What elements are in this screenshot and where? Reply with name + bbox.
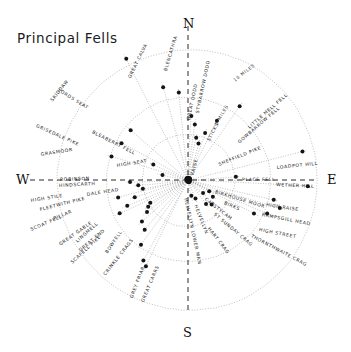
fell-marker[interactable] — [133, 195, 137, 199]
bearing-ray — [133, 180, 185, 185]
bearing-ray — [113, 181, 185, 199]
fell-radial-diagram — [0, 0, 351, 352]
bearing-ray — [191, 176, 241, 179]
fell-marker[interactable] — [238, 104, 242, 108]
fell-marker[interactable] — [148, 201, 152, 205]
bearing-ray — [127, 127, 186, 178]
fell-marker[interactable] — [211, 195, 215, 199]
fell-marker[interactable] — [136, 183, 140, 187]
fell-marker[interactable] — [141, 258, 145, 262]
fell-marker[interactable] — [139, 243, 143, 247]
fell-marker[interactable] — [252, 212, 256, 216]
fell-marker[interactable] — [143, 228, 147, 232]
fell-marker[interactable] — [129, 128, 133, 132]
cardinal-south: S — [183, 325, 192, 340]
fell-marker[interactable] — [125, 204, 129, 208]
fell-marker[interactable] — [207, 189, 211, 193]
fell-marker[interactable] — [141, 187, 145, 191]
bearing-ray — [144, 183, 187, 271]
fell-label: PLACE FELL — [242, 178, 275, 183]
fell-marker[interactable] — [140, 219, 144, 223]
fell-marker[interactable] — [272, 198, 276, 202]
fell-marker[interactable] — [203, 131, 207, 135]
fell-marker[interactable] — [110, 155, 114, 159]
fell-marker[interactable] — [177, 90, 181, 94]
bearing-ray — [162, 82, 187, 177]
fell-marker[interactable] — [151, 163, 155, 167]
hub-blob — [185, 180, 189, 184]
fell-marker[interactable] — [146, 205, 150, 209]
bearing-ray — [138, 182, 186, 248]
cardinal-axes-group — [30, 26, 318, 312]
bearing-ray — [189, 183, 193, 201]
fell-marker[interactable] — [234, 175, 238, 179]
bearing-ray — [115, 181, 185, 215]
cardinal-north: N — [183, 16, 194, 31]
fell-marker[interactable] — [300, 149, 304, 153]
fell-marker[interactable] — [193, 122, 197, 126]
fell-marker[interactable] — [128, 180, 132, 184]
bearing-ray — [123, 181, 186, 208]
fell-marker[interactable] — [118, 211, 122, 215]
cardinal-east: E — [327, 172, 337, 187]
fell-marker[interactable] — [124, 57, 128, 61]
fell-marker[interactable] — [160, 173, 164, 177]
bearing-ray — [143, 182, 186, 215]
fell-marker[interactable] — [201, 191, 205, 195]
fell-marker[interactable] — [193, 197, 197, 201]
fell-marker[interactable] — [196, 141, 200, 145]
fell-marker[interactable] — [189, 194, 193, 198]
fell-marker[interactable] — [145, 210, 149, 214]
fell-marker[interactable] — [194, 136, 198, 140]
figure-canvas: Principal Fells NSEW SKIDDAWGREAT CALVAB… — [0, 0, 351, 352]
cardinal-west: W — [16, 172, 29, 187]
fell-marker[interactable] — [116, 195, 120, 199]
fell-marker[interactable] — [161, 85, 165, 89]
page-title: Principal Fells — [17, 30, 118, 46]
